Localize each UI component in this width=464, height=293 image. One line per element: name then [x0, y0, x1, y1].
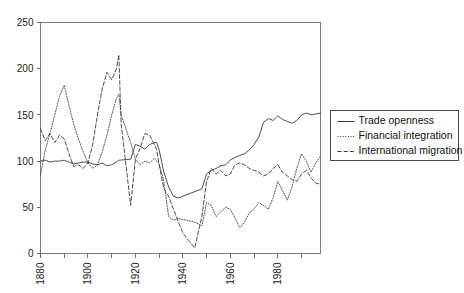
x-tick-label: 1940 — [177, 262, 188, 285]
series-group — [41, 55, 321, 248]
y-tick-label: 0 — [28, 248, 34, 259]
x-tick-label: 1900 — [82, 262, 93, 285]
y-tick-label: 50 — [22, 202, 34, 213]
x-tick-label: 1980 — [272, 262, 283, 285]
legend: Trade opennessFinancial integrationInter… — [331, 111, 463, 161]
x-tick-label: 1920 — [130, 262, 141, 285]
y-tick-label: 250 — [17, 17, 34, 28]
y-tick-label: 100 — [17, 156, 34, 167]
globalization-line-chart: 050100150200250188019001920194019601980T… — [0, 0, 464, 293]
legend-label[interactable]: International migration — [359, 144, 463, 156]
y-tick-label: 200 — [17, 63, 34, 74]
x-tick-label: 1880 — [35, 262, 46, 285]
legend-label[interactable]: Trade openness — [359, 114, 435, 126]
x-axis: 188019001920194019601980 — [35, 254, 302, 285]
x-tick-label: 1960 — [225, 262, 236, 285]
series-line-financial-integration — [41, 85, 321, 227]
y-axis: 050100150200250 — [17, 17, 41, 259]
legend-label[interactable]: Financial integration — [359, 129, 453, 141]
y-tick-label: 150 — [17, 110, 34, 121]
series-line-trade-openness — [41, 113, 321, 198]
chart-canvas: 050100150200250188019001920194019601980T… — [0, 0, 464, 293]
